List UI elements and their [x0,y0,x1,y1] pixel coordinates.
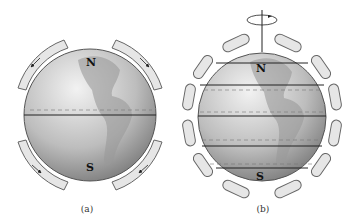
circulation-cell [273,33,303,54]
circulation-cell [273,179,303,200]
globe-single-cell-diagram: N S [0,0,176,224]
caption-b: (b) [248,204,278,214]
south-label: S [86,161,94,174]
circulation-cell [328,83,342,110]
north-label: N [256,62,266,75]
globe-three-cell-diagram: N S [176,0,353,224]
caption-a: (a) [72,204,102,214]
circulation-cell [182,83,196,110]
circulation-cell [309,53,332,80]
circulation-cell [328,119,342,146]
panel-a: N S (a) [0,0,176,224]
panel-b: N S (b) [176,0,353,224]
circulation-cell [191,53,214,80]
circulation-cell [221,179,251,200]
south-label: S [256,170,264,183]
circulation-cell [182,119,196,146]
circulation-cell [221,33,251,54]
north-label: N [86,56,96,69]
